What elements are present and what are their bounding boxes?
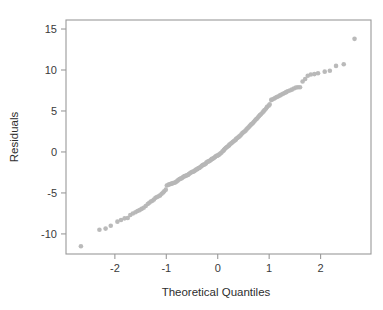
- data-point: [316, 71, 321, 76]
- data-point: [298, 85, 303, 90]
- y-axis-title: Residuals: [8, 112, 20, 163]
- data-point: [352, 37, 357, 42]
- data-point: [334, 64, 339, 69]
- data-point: [108, 223, 113, 228]
- plot-background: [0, 0, 383, 310]
- y-tick-label: 0: [51, 146, 57, 158]
- data-point: [163, 187, 168, 192]
- data-point: [328, 69, 333, 74]
- x-tick-label: 1: [266, 262, 272, 274]
- data-point: [267, 102, 272, 107]
- qq-plot-svg: -2-1012 -10-5051015 Theoretical Quantile…: [0, 0, 383, 310]
- qq-plot-figure: -2-1012 -10-5051015 Theoretical Quantile…: [0, 0, 383, 310]
- y-tick-label: 10: [45, 64, 57, 76]
- x-tick-label: 0: [215, 262, 221, 274]
- data-point: [97, 228, 102, 233]
- y-tick-label: -10: [41, 228, 57, 240]
- x-axis-title: Theoretical Quantiles: [162, 286, 271, 298]
- y-tick-label: 15: [45, 23, 57, 35]
- data-point: [322, 69, 327, 74]
- x-tick-label: -1: [161, 262, 171, 274]
- y-tick-label: 5: [51, 105, 57, 117]
- data-point: [341, 62, 346, 67]
- x-tick-label: 2: [318, 262, 324, 274]
- data-point: [79, 244, 84, 249]
- x-tick-label: -2: [110, 262, 120, 274]
- data-point: [103, 226, 108, 231]
- y-tick-label: -5: [47, 187, 57, 199]
